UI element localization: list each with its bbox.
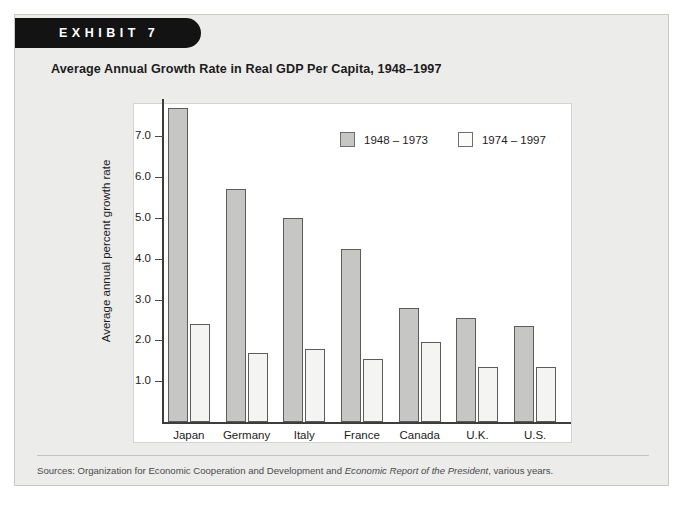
source-suffix: , various years.	[488, 465, 553, 476]
bar-uk-series-1	[456, 318, 476, 422]
legend-item-1: 1948 – 1973	[340, 132, 428, 147]
bar-italy-series-1	[283, 218, 303, 422]
legend-label-2: 1974 – 1997	[482, 134, 546, 146]
bar-canada-series-2	[421, 342, 441, 422]
source-note: Sources: Organization for Economic Coope…	[37, 465, 553, 476]
chart-area: 1.02.03.04.05.06.07.0 Average annual per…	[15, 15, 670, 487]
bar-germany-series-2	[248, 353, 268, 422]
x-axis-label-us: U.S.	[495, 429, 575, 441]
legend-item-2: 1974 – 1997	[458, 132, 546, 147]
bar-japan-series-1	[168, 108, 188, 422]
bar-france-series-1	[341, 249, 361, 422]
legend-swatch-2	[458, 132, 473, 147]
bar-canada-series-1	[399, 308, 419, 422]
bar-uk-series-2	[478, 367, 498, 422]
bar-france-series-2	[363, 359, 383, 422]
bar-us-series-1	[514, 326, 534, 422]
source-divider	[37, 455, 649, 456]
bars-layer	[15, 15, 670, 487]
source-prefix: Sources: Organization for Economic Coope…	[37, 465, 345, 476]
bar-japan-series-2	[190, 324, 210, 422]
bar-germany-series-1	[226, 189, 246, 422]
bar-us-series-2	[536, 367, 556, 422]
legend-label-1: 1948 – 1973	[364, 134, 428, 146]
bar-italy-series-2	[305, 349, 325, 422]
legend-swatch-1	[340, 132, 355, 147]
exhibit-page: EXHIBIT 7 Average Annual Growth Rate in …	[0, 0, 683, 517]
chart-legend: 1948 – 19731974 – 1997	[340, 132, 546, 147]
source-italic-title: Economic Report of the President	[345, 465, 488, 476]
exhibit-frame: EXHIBIT 7 Average Annual Growth Rate in …	[14, 14, 669, 486]
